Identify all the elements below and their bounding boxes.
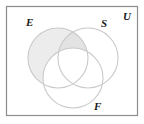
universe-label-U: U [123, 11, 131, 22]
set-label-S: S [101, 18, 107, 29]
set-label-E: E [26, 17, 33, 28]
set-label-F: F [94, 101, 101, 112]
venn-diagram-figure: E S F U [0, 0, 144, 124]
